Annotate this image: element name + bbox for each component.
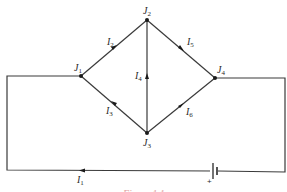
- label-i2: I2: [106, 36, 114, 49]
- arrow-i5-icon: [178, 45, 184, 51]
- label-i3: I3: [105, 105, 113, 118]
- current-labels: I1 I2 I3 I4 I5 I6: [76, 36, 194, 187]
- label-j1: J1: [74, 62, 82, 75]
- arrow-i1-icon: [79, 169, 85, 173]
- label-j3: J3: [143, 137, 151, 150]
- junction-j4-dot: [213, 76, 217, 80]
- label-i1: I1: [76, 174, 84, 187]
- label-i5: I5: [186, 36, 194, 49]
- wire-left-loop: [7, 76, 213, 171]
- label-i4: I4: [134, 70, 142, 83]
- junction-labels: J1 J2 J3 J4: [74, 5, 225, 150]
- label-j4: J4: [217, 64, 225, 77]
- figure-caption: Figure 1.1: [122, 188, 165, 192]
- battery-icon: +: [207, 163, 217, 186]
- outer-loop-wires: [7, 76, 285, 172]
- battery-plus-label: +: [207, 177, 212, 186]
- junction-j2-dot: [145, 18, 149, 22]
- wire-right-loop: [215, 78, 285, 172]
- junction-j3-dot: [145, 131, 149, 135]
- circuit-diagram: + J1 J2 J3 J4 I1 I2 I3 I4 I5 I6: [0, 0, 287, 192]
- label-j2: J2: [143, 5, 151, 18]
- arrow-i4-icon: [145, 73, 149, 79]
- label-i6: I6: [185, 106, 193, 119]
